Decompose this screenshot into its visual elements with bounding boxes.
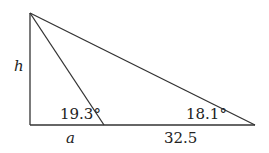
angle-right-label: 18.1° [186, 105, 227, 123]
height-label: h [14, 57, 24, 75]
angle-inner-label: 19.3° [60, 105, 101, 123]
base-right-label: 32.5 [164, 129, 197, 147]
base-left-label: a [66, 129, 75, 147]
triangle-diagram: h a 32.5 19.3° 18.1° [0, 0, 269, 153]
